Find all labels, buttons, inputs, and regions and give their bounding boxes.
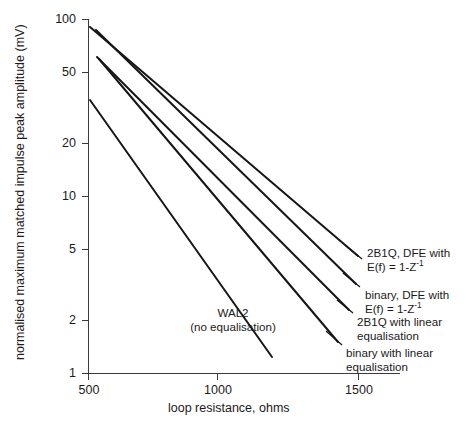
annotation-wal2: WAL2 (no equalisation) [178, 306, 288, 333]
leader-line-2b1q-linear [337, 300, 353, 313]
annotation-wal2-line2: (no equalisation) [178, 320, 288, 334]
annotation-binary-linear-line1: binary with linear [346, 346, 433, 360]
series-line-binary-dfe [96, 30, 356, 284]
annotation-2b1q-dfe-line2: E(f) = 1-Z-1 [367, 260, 450, 274]
annotation-2b1q-dfe-exponent: -1 [416, 258, 423, 268]
chart-figure: 100 50 20 10 5 2 1 500 1000 1500 normali… [0, 0, 470, 426]
annotation-binary-linear: binary with linear equalisation [346, 346, 433, 373]
annotation-2b1q-dfe: 2B1Q, DFE with E(f) = 1-Z-1 [367, 246, 450, 273]
y-tick-label-20: 20 [48, 137, 76, 150]
series-line-2b1q-dfe [90, 27, 358, 256]
x-tick-label-1500: 1500 [335, 384, 383, 397]
y-tick-label-1: 1 [48, 367, 76, 380]
annotation-binary-dfe-exponent: -1 [414, 300, 421, 310]
annotation-binary-dfe-line2: E(f) = 1-Z-1 [365, 302, 449, 316]
annotation-2b1q-dfe-line1: 2B1Q, DFE with [367, 246, 450, 260]
annotation-binary-dfe: binary, DFE with E(f) = 1-Z-1 [365, 288, 449, 315]
x-tick-label-500: 500 [66, 384, 112, 397]
annotation-binary-dfe-line1: binary, DFE with [365, 288, 449, 302]
leader-line-binary-linear [326, 331, 342, 345]
y-tick-label-2: 2 [48, 314, 76, 327]
series-line-2b1q-linear [97, 57, 349, 310]
y-tick-label-5: 5 [48, 243, 76, 256]
annotation-2b1q-linear-line2: equalisation [357, 329, 442, 343]
annotation-wal2-line1: WAL2 [178, 306, 288, 320]
leader-line-binary-dfe [343, 273, 360, 287]
leader-line-2b1q-dfe [345, 245, 362, 259]
y-tick-label-50: 50 [48, 66, 76, 79]
y-tick-label-10: 10 [48, 190, 76, 203]
annotation-binary-linear-line2: equalisation [346, 360, 433, 374]
annotation-binary-dfe-expr: E(f) = 1-Z [365, 302, 414, 315]
y-axis-title: normalised maximum matched impulse peak … [14, 24, 27, 360]
x-axis-ticks [89, 374, 359, 381]
y-axis-ticks [82, 20, 89, 374]
series-line-binary-linear [99, 59, 338, 342]
annotation-2b1q-linear: 2B1Q with linear equalisation [357, 315, 442, 342]
x-axis-title: loop resistance, ohms [168, 402, 290, 415]
annotation-2b1q-linear-line1: 2B1Q with linear [357, 315, 442, 329]
x-tick-label-1000: 1000 [194, 384, 242, 397]
y-tick-label-100: 100 [48, 13, 76, 26]
annotation-2b1q-dfe-expr: E(f) = 1-Z [367, 260, 416, 273]
